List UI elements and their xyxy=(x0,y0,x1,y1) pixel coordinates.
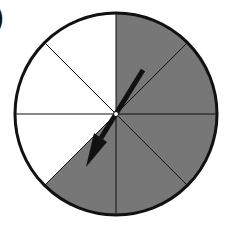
spinner xyxy=(0,0,231,225)
pivot-icon xyxy=(114,112,119,117)
